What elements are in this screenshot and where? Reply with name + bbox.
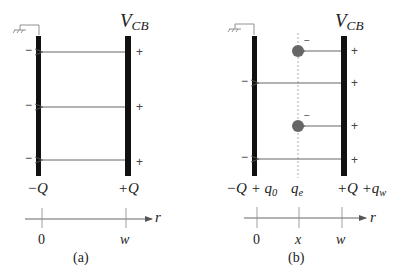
right-charge-a: +Q	[118, 181, 139, 196]
voltage-subscript: CB	[132, 18, 149, 33]
tick-label-x-b: x	[295, 233, 301, 247]
middle-charge-b: qe	[291, 181, 303, 198]
plus-sign-a-3: +	[136, 156, 143, 168]
tick-label-w-a: w	[120, 233, 129, 247]
electron-sign-2: −	[304, 111, 310, 121]
left-charge-b-text: −Q + q	[226, 180, 272, 196]
right-charge-b: +Q +qw	[337, 181, 386, 198]
minus-sign-b-2: −	[241, 151, 248, 163]
voltage-label-b: VCB	[335, 11, 364, 33]
left-charge-b-sub: 0	[272, 187, 277, 198]
plus-sign-b-3: +	[351, 120, 358, 132]
electron-1	[292, 45, 304, 57]
ground-icon-b	[228, 24, 254, 35]
right-plate-a	[125, 36, 131, 176]
minus-sign-b-1: −	[241, 75, 248, 87]
minus-sign-a-3: −	[25, 152, 32, 164]
middle-charge-b-sub: e	[299, 187, 304, 198]
minus-sign-a-1: −	[25, 44, 32, 56]
left-plate-b	[252, 36, 257, 176]
right-charge-b-sub: w	[379, 187, 386, 198]
tick-label-0-b: 0	[253, 233, 260, 247]
voltage-label-a: VCB	[120, 11, 149, 33]
electron-sign-1: −	[304, 36, 310, 46]
voltage-subscript: CB	[347, 18, 364, 33]
plus-sign-b-4: +	[351, 154, 358, 166]
tick-label-0-a: 0	[38, 233, 45, 247]
ground-icon-a	[13, 25, 39, 35]
left-charge-a: −Q	[27, 181, 48, 196]
plus-sign-a-2: +	[136, 101, 143, 113]
caption-a: (a)	[73, 251, 89, 265]
electron-2	[292, 120, 304, 132]
right-plate-b	[341, 36, 347, 176]
plus-sign-a-1: +	[136, 46, 143, 58]
voltage-symbol: V	[120, 10, 132, 31]
plus-sign-b-2: +	[351, 77, 358, 89]
axis-r-label-a: r	[155, 210, 161, 225]
right-charge-b-text: +Q +q	[337, 180, 379, 196]
plus-sign-b-1: +	[351, 45, 358, 57]
left-plate-a	[36, 36, 41, 176]
capacitor-diagram	[0, 0, 393, 272]
axis-r-label-b: r	[370, 210, 376, 225]
middle-charge-b-text: q	[291, 180, 299, 196]
voltage-symbol: V	[335, 10, 347, 31]
tick-label-w-b: w	[336, 233, 345, 247]
minus-sign-a-2: −	[25, 99, 32, 111]
caption-b: (b)	[288, 251, 304, 265]
panel-a	[13, 25, 152, 228]
left-charge-b: −Q + q0	[226, 181, 277, 198]
